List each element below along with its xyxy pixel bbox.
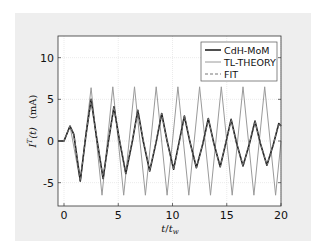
x-axis-label: t/tw	[161, 223, 178, 236]
x-tick-label: 0	[61, 209, 68, 222]
legend-label-fit: FIT	[224, 69, 238, 80]
x-tick-label: 10	[166, 209, 180, 222]
legend-label-cdh-mom: CdH-MoM	[224, 45, 269, 56]
y-tick-label: 10	[40, 52, 54, 65]
legend-label-tl-theory: TL-THEORY	[223, 57, 276, 68]
x-tick-label: 20	[274, 209, 288, 222]
y-tick-label: 0	[47, 135, 54, 148]
y-label-unit: (mA)	[27, 94, 38, 119]
y-tick-label: -5	[43, 177, 54, 190]
legend: CdH-MoM TL-THEORY FIT	[201, 42, 277, 81]
y-axis-label: IT(t)(mA)	[26, 94, 38, 148]
x-tick-label: 15	[220, 209, 234, 222]
y-label-t: (t)	[27, 127, 38, 139]
y-tick-label: 5	[47, 93, 54, 106]
x-tick-label: 5	[115, 209, 122, 222]
line-chart: 05101520-50510 IT(t)(mA) t/tw CdH-MoM TL…	[0, 0, 325, 248]
svg-text:IT(t)(mA): IT(t)(mA)	[26, 94, 38, 148]
x-label-tw-sub: w	[173, 228, 179, 236]
